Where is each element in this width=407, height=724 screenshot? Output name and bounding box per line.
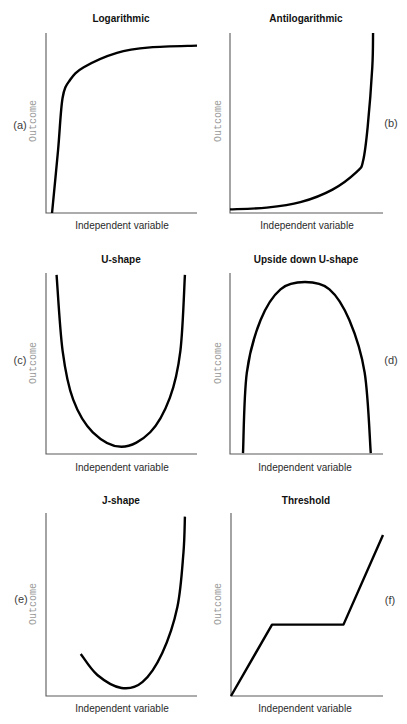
axes — [231, 513, 383, 696]
panel-logarithmic: Logarithmic Outcome Independent variable… — [13, 13, 197, 231]
panel-antilogarithmic: Antilogarithmic Outcome Independent vari… — [213, 13, 398, 231]
x-axis-label: Independent variable — [75, 462, 169, 473]
panel-title: Upside down U-shape — [254, 254, 359, 265]
panel-threshold: Threshold Outcome Independent variable (… — [213, 495, 395, 714]
curve-line — [81, 517, 185, 689]
curve-line — [230, 33, 373, 209]
panel-label: (a) — [13, 119, 26, 131]
panel-label: (c) — [14, 354, 27, 366]
panel-title: Logarithmic — [92, 13, 150, 24]
axes — [46, 273, 197, 454]
curve-line — [243, 282, 371, 453]
panel-label: (d) — [384, 354, 397, 366]
axes — [230, 273, 383, 454]
axes — [46, 513, 197, 696]
x-axis-label: Independent variable — [258, 703, 352, 714]
y-axis-label: Outcome — [28, 583, 39, 625]
panel-title: Antilogarithmic — [269, 13, 343, 24]
axes — [230, 33, 383, 213]
x-axis-label: Independent variable — [260, 220, 354, 231]
x-axis-label: Independent variable — [75, 220, 169, 231]
y-axis-label: Outcome — [213, 583, 224, 625]
x-axis-label: Independent variable — [258, 462, 352, 473]
panel-j-shape: J-shape Outcome Independent variable (e) — [14, 495, 197, 714]
panel-title: Threshold — [282, 495, 330, 506]
y-axis-label: Outcome — [213, 100, 224, 142]
panel-title: U-shape — [101, 254, 141, 265]
relationship-shapes-figure: Logarithmic Outcome Independent variable… — [0, 0, 407, 724]
y-axis-label: Outcome — [28, 100, 39, 142]
curve-line — [57, 275, 185, 447]
y-axis-label: Outcome — [28, 342, 39, 384]
panel-label: (b) — [384, 117, 397, 129]
x-axis-label: Independent variable — [75, 703, 169, 714]
curve-line — [231, 535, 383, 696]
y-axis-label: Outcome — [213, 342, 224, 384]
panel-label: (e) — [14, 593, 27, 605]
curve-line — [52, 46, 197, 213]
panel-title: J-shape — [102, 495, 140, 506]
panel-upside-down-u-shape: Upside down U-shape Outcome Independent … — [213, 254, 398, 473]
axes — [46, 33, 197, 213]
panel-label: (f) — [385, 594, 395, 606]
panel-u-shape: U-shape Outcome Independent variable (c) — [14, 254, 197, 473]
